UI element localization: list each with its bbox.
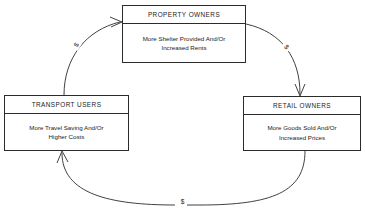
arc-property-to-retail bbox=[246, 24, 300, 94]
node-transport-users-body-line2: Higher Costs bbox=[29, 132, 103, 142]
cycle-diagram: PROPERTY OWNERS More Shelter Provided An… bbox=[0, 0, 365, 214]
arc-retail-to-transport-right bbox=[183, 151, 305, 205]
node-property-owners-body: More Shelter Provided And/Or Increased R… bbox=[123, 24, 245, 62]
node-retail-owners-title: RETAIL OWNERS bbox=[244, 97, 360, 115]
node-retail-owners[interactable]: RETAIL OWNERS More Goods Sold And/Or Inc… bbox=[243, 96, 361, 151]
node-transport-users[interactable]: TRANSPORT USERS More Travel Saving And/O… bbox=[4, 95, 129, 151]
arc-retail-to-transport-left bbox=[62, 153, 175, 205]
node-retail-owners-body: More Goods Sold And/Or Increased Prices bbox=[244, 115, 360, 150]
node-transport-users-body: More Travel Saving And/Or Higher Costs bbox=[5, 114, 128, 150]
node-retail-owners-body-line1: More Goods Sold And/Or bbox=[267, 123, 336, 133]
node-transport-users-body-line1: More Travel Saving And/Or bbox=[29, 123, 103, 133]
node-retail-owners-body-line2: Increased Prices bbox=[267, 133, 336, 143]
node-property-owners-title: PROPERTY OWNERS bbox=[123, 6, 245, 24]
node-property-owners-body-line2: Increased Rents bbox=[143, 43, 226, 53]
node-property-owners-body-line1: More Shelter Provided And/Or bbox=[143, 34, 226, 44]
node-transport-users-title: TRANSPORT USERS bbox=[5, 96, 128, 114]
connector-label-retail-to-transport: $ bbox=[178, 198, 187, 206]
node-property-owners[interactable]: PROPERTY OWNERS More Shelter Provided An… bbox=[122, 5, 246, 63]
arc-transport-to-property bbox=[64, 22, 120, 95]
arrowhead-into-property-owners bbox=[110, 17, 122, 27]
